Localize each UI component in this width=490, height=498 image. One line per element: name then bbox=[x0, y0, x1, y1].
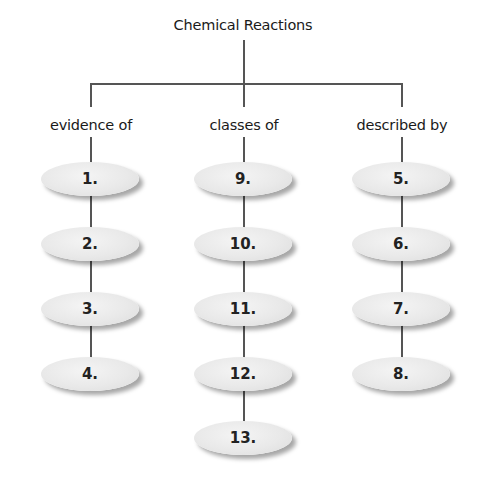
node-3: 3. bbox=[41, 292, 139, 326]
node-4: 4. bbox=[41, 357, 139, 391]
node-7: 7. bbox=[352, 292, 450, 326]
node-10: 10. bbox=[194, 227, 292, 261]
node-1: 1. bbox=[41, 162, 139, 196]
left-branch-connector bbox=[90, 83, 92, 107]
title-connector bbox=[243, 40, 245, 107]
node-13: 13. bbox=[194, 421, 292, 455]
node-8: 8. bbox=[352, 357, 450, 391]
branch-label-classes: classes of bbox=[164, 117, 324, 133]
node-2: 2. bbox=[41, 227, 139, 261]
branch-label-evidence: evidence of bbox=[11, 117, 171, 133]
horizontal-connector bbox=[90, 83, 402, 85]
node-12: 12. bbox=[194, 357, 292, 391]
node-5: 5. bbox=[352, 162, 450, 196]
node-9: 9. bbox=[194, 162, 292, 196]
node-11: 11. bbox=[194, 292, 292, 326]
node-6: 6. bbox=[352, 227, 450, 261]
diagram-title: Chemical Reactions bbox=[0, 17, 486, 33]
right-branch-connector bbox=[401, 83, 403, 107]
branch-label-described: described by bbox=[322, 117, 482, 133]
